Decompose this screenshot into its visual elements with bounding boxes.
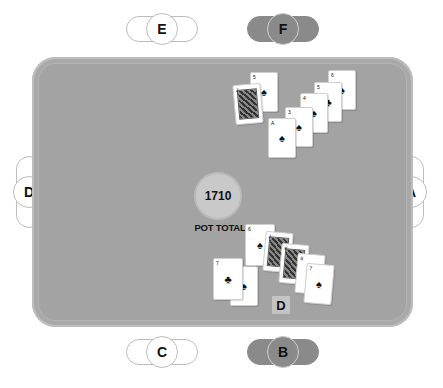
face-card-art — [237, 88, 260, 120]
seat-b[interactable]: B — [247, 335, 319, 369]
card: 7♣ — [213, 258, 243, 300]
seat-b-label: B — [267, 336, 299, 368]
card: 7♠ — [303, 263, 334, 305]
seat-c[interactable]: C — [126, 335, 198, 369]
card: J — [232, 83, 263, 125]
pot-chip: 1710 — [196, 174, 240, 218]
pot-total-label: POT TOTAL — [190, 222, 250, 233]
seat-e-label: E — [146, 13, 178, 45]
seat-f-label: F — [267, 13, 299, 45]
seat-c-label: C — [146, 336, 178, 368]
seat-f[interactable]: F — [247, 12, 319, 46]
dealer-button: D — [272, 296, 290, 314]
card: A♠ — [268, 118, 296, 158]
seat-e[interactable]: E — [126, 12, 198, 46]
